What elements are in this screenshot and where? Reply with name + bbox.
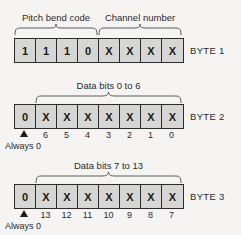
byte-1-cell-1: 1 [36, 39, 57, 62]
byte-2-bitnum-2: 2 [119, 130, 140, 140]
byte-2-label: BYTE 2 [190, 111, 225, 122]
byte-3-bitnum-13: 13 [35, 210, 56, 220]
byte-2-brace-label-data-bits: Data bits 0 to 6 [35, 80, 182, 91]
byte-2-cells: 0 X X X X X X X [14, 104, 184, 129]
byte-1-cell-5: X [120, 39, 141, 62]
byte-2-cell-1: X [36, 105, 57, 128]
byte-3-bitnum-8: 8 [140, 210, 161, 220]
byte-1-brace-channel-number [98, 24, 182, 36]
byte-2-cell-4: X [99, 105, 120, 128]
byte-1-cell-6: X [141, 39, 162, 62]
byte-1-brace-pitch-bend-code [14, 24, 98, 36]
byte-2-cell-3: X [78, 105, 99, 128]
byte-3-bit-numbers: 13 12 11 10 9 8 7 [35, 210, 182, 220]
byte-2-bitnum-6: 6 [35, 130, 56, 140]
byte-3-cell-0: 0 [15, 185, 36, 208]
byte-1-cell-3: 0 [78, 39, 99, 62]
byte-3-always-zero-pointer-icon [20, 210, 28, 217]
byte-3-cell-4: X [99, 185, 120, 208]
byte-1-cells: 1 1 1 0 X X X X [14, 38, 184, 63]
byte-2-always-zero-pointer-icon [20, 130, 28, 137]
byte-3-label: BYTE 3 [190, 191, 225, 202]
byte-1-cell-7: X [162, 39, 183, 62]
byte-3-bitnum-11: 11 [77, 210, 98, 220]
byte-1-cell-0: 1 [15, 39, 36, 62]
byte-2-bitnum-0: 0 [161, 130, 182, 140]
byte-3-brace-data-bits [35, 172, 182, 184]
byte-2-bitnum-3: 3 [98, 130, 119, 140]
byte-2-cell-6: X [141, 105, 162, 128]
byte-1-cell-4: X [99, 39, 120, 62]
byte-3-cell-2: X [57, 185, 78, 208]
byte-3-cell-7: X [162, 185, 183, 208]
byte-2-bitnum-5: 5 [56, 130, 77, 140]
byte-3-bitnum-7: 7 [161, 210, 182, 220]
byte-2-brace-data-bits [35, 92, 182, 104]
byte-3-bitnum-10: 10 [98, 210, 119, 220]
byte-2-cell-5: X [120, 105, 141, 128]
byte-3-bitnum-12: 12 [56, 210, 77, 220]
byte-3-cell-5: X [120, 185, 141, 208]
midi-pitch-bend-diagram: Pitch bend code Channel number 1 1 1 0 X… [0, 0, 241, 235]
byte-1-label: BYTE 1 [190, 45, 225, 56]
byte-2-bit-numbers: 6 5 4 3 2 1 0 [35, 130, 182, 140]
byte-3-cell-3: X [78, 185, 99, 208]
byte-3-cells: 0 X X X X X X X [14, 184, 184, 209]
byte-2-cell-7: X [162, 105, 183, 128]
byte-3-bitnum-9: 9 [119, 210, 140, 220]
byte-2-cell-2: X [57, 105, 78, 128]
byte-3-cell-6: X [141, 185, 162, 208]
byte-3-cell-1: X [36, 185, 57, 208]
byte-2-cell-0: 0 [15, 105, 36, 128]
byte-2-bitnum-4: 4 [77, 130, 98, 140]
byte-2-bitnum-1: 1 [140, 130, 161, 140]
byte-1-brace-label-pitch-bend-code: Pitch bend code [14, 12, 98, 23]
byte-1-brace-label-channel-number: Channel number [98, 12, 182, 23]
byte-3-always-zero-label: Always 0 [5, 221, 41, 231]
byte-1-cell-2: 1 [57, 39, 78, 62]
byte-3-brace-label-data-bits: Data bits 7 to 13 [35, 160, 182, 171]
byte-2-always-zero-label: Always 0 [5, 141, 41, 151]
